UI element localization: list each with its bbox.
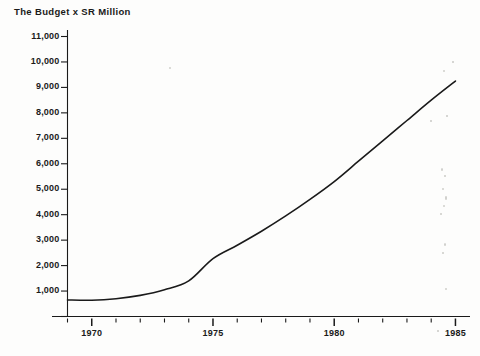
y-axis-tick-label: 11,000 <box>16 31 60 41</box>
y-axis-tick-label: 7,000 <box>16 132 60 142</box>
chart-plot-area <box>0 0 480 356</box>
y-axis-tick-label: 6,000 <box>16 158 60 168</box>
x-axis-tick-label: 1970 <box>69 328 115 338</box>
y-axis-tick-label: 9,000 <box>16 81 60 91</box>
x-axis-tick-label: 1975 <box>190 328 236 338</box>
chart-page: The Budget x SR Million 11,00010,0009,00… <box>0 0 480 356</box>
budget-line-chart <box>0 0 480 356</box>
budget-data-line <box>68 81 456 300</box>
y-axis-tick-label: 8,000 <box>16 107 60 117</box>
x-axis-tick-label: 1985 <box>432 328 478 338</box>
y-axis-tick-label: 3,000 <box>16 234 60 244</box>
y-axis-tick-label: 2,000 <box>16 260 60 270</box>
x-axis-tick-label: 1980 <box>311 328 357 338</box>
y-axis-tick-label: 5,000 <box>16 183 60 193</box>
y-axis-tick-label: 10,000 <box>16 56 60 66</box>
y-axis-tick-label: 4,000 <box>16 209 60 219</box>
y-axis-tick-label: 1,000 <box>16 285 60 295</box>
